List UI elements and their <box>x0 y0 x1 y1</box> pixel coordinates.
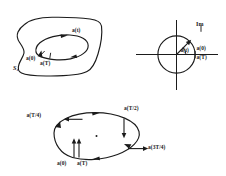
figure-drawing <box>0 0 226 176</box>
imaginary-axis-label: Im <box>196 21 204 27</box>
circle-start-label: a(0) <box>197 46 206 51</box>
region-inner-loop <box>36 34 88 60</box>
loop-arrow-bottom <box>70 55 77 59</box>
region-blob-outline <box>17 17 102 76</box>
ellipse-start-label: a(0) <box>57 161 66 166</box>
region-name-label: S₁ <box>13 65 19 71</box>
region-curve-label: a(t) <box>72 28 80 33</box>
circle-vector-label: a(t) <box>181 48 189 53</box>
ellipse-three-quarter-label: a(3T/4) <box>148 145 165 150</box>
circle-end-label: a(T) <box>197 55 207 60</box>
ellipse-arrow-left <box>55 121 61 128</box>
ellipse-end-label: a(T) <box>77 161 87 166</box>
ellipse-center-dot <box>96 135 98 137</box>
ellipse-quarter-label: a(T/4) <box>27 113 42 118</box>
figure-canvas: a(t) a(0) a(T) S₁ Im a(t) a(0) a(T) a(T/… <box>0 0 226 176</box>
ellipse-half-label: a(T/2) <box>124 106 139 111</box>
region-end-label: a(T) <box>40 61 50 66</box>
region-start-label: a(0) <box>26 56 35 61</box>
